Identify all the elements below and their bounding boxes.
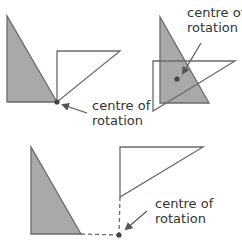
label-line1: centre of — [187, 5, 242, 20]
centre-of-rotation-dot — [54, 99, 59, 104]
label-line1: centre of — [92, 98, 151, 113]
panel-top-right: centre of rotation — [153, 5, 242, 111]
label-line2: rotation — [92, 113, 143, 128]
shaded-triangle — [31, 147, 81, 234]
label-line2: rotation — [187, 20, 238, 35]
arrow-icon — [126, 211, 147, 229]
panel-top-left: centre of rotation — [7, 16, 151, 128]
panel-bottom: centre of rotation — [31, 147, 214, 238]
rotation-diagram: centre of rotation centre of rotation ce… — [0, 0, 242, 250]
centre-of-rotation-dot — [116, 232, 121, 237]
arrow-icon — [63, 105, 87, 113]
label-line1: centre of — [155, 196, 214, 211]
rotated-outline-triangle — [57, 51, 120, 102]
centre-of-rotation-dot — [174, 76, 179, 81]
shaded-triangle — [7, 16, 57, 102]
arrow-icon — [183, 43, 201, 73]
rotated-outline-triangle — [120, 147, 203, 197]
dashed-construction-line-vertical — [119, 197, 120, 235]
label-line2: rotation — [155, 211, 206, 226]
dashed-construction-line-horizontal — [81, 234, 119, 235]
